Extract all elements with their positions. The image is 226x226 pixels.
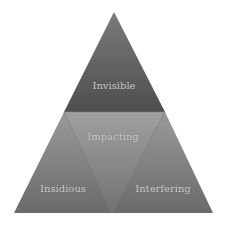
label-invisible: Invisible: [92, 80, 135, 91]
label-impacting: Impacting: [87, 131, 138, 142]
segment-top: [64, 12, 165, 112]
label-insidious: Insidious: [40, 183, 86, 194]
pyramid-diagram: [0, 0, 226, 226]
label-interfering: Interfering: [135, 183, 191, 194]
